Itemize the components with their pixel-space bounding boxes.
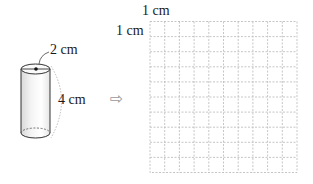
height-label: 4 cm — [58, 93, 86, 107]
diagram-canvas — [0, 0, 313, 184]
grid-left-unit-label: 1 cm — [116, 24, 144, 38]
grid-top-unit-label: 1 cm — [142, 4, 170, 18]
outline-right-arrow-icon: ⇨ — [110, 91, 123, 107]
diameter-label: 2 cm — [50, 43, 78, 57]
grid-paper — [150, 22, 297, 173]
cylinder — [21, 52, 62, 138]
